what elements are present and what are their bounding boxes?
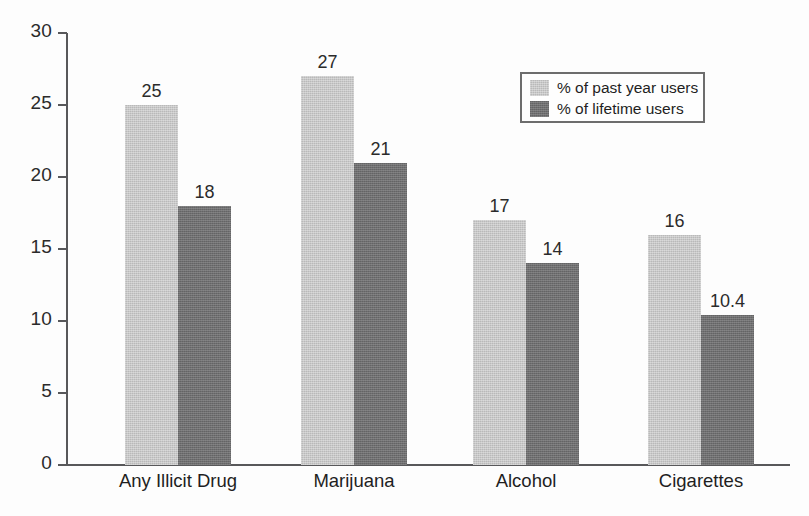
bar-value-label: 18 [164, 182, 245, 203]
bar [301, 76, 354, 465]
legend-label-past-year: % of past year users [557, 79, 698, 97]
legend: % of past year users % of lifetime users [520, 72, 705, 123]
legend-item-past-year: % of past year users [530, 78, 698, 98]
y-tick-mark [58, 320, 67, 322]
y-tick-label: 25 [12, 92, 52, 114]
bar [125, 105, 178, 465]
y-tick-label: 0 [12, 452, 52, 474]
bar-value-label: 10.4 [687, 291, 768, 312]
legend-swatch-icon-lifetime [530, 101, 549, 117]
legend-label-lifetime: % of lifetime users [557, 100, 684, 118]
y-tick-label: 10 [12, 308, 52, 330]
legend-item-lifetime: % of lifetime users [530, 99, 684, 119]
y-tick-mark [58, 32, 67, 34]
y-tick-label: 15 [12, 236, 52, 258]
bar [701, 315, 754, 465]
bar-value-label: 17 [459, 196, 540, 217]
y-tick-label: 20 [12, 164, 52, 186]
x-axis-category-label: Cigarettes [598, 470, 804, 492]
y-tick-mark [58, 392, 67, 394]
y-tick-mark [58, 176, 67, 178]
bar-value-label: 21 [340, 139, 421, 160]
bar [354, 163, 407, 465]
bar [178, 206, 231, 465]
y-tick-label: 30 [12, 20, 52, 42]
bar-chart: 051015202530 2518272117141610.4 Any Illi… [0, 0, 809, 516]
y-tick-mark [58, 248, 67, 250]
y-tick-mark [58, 104, 67, 106]
bar-value-label: 14 [512, 239, 593, 260]
bar [648, 235, 701, 465]
legend-swatch-icon-past-year [530, 80, 549, 96]
y-tick-label: 5 [12, 380, 52, 402]
plot-area: 051015202530 2518272117141610.4 Any Illi… [0, 0, 809, 516]
bar-value-label: 27 [287, 52, 368, 73]
bar [526, 263, 579, 465]
bar-value-label: 16 [634, 211, 715, 232]
bar-value-label: 25 [111, 81, 192, 102]
y-tick-mark [58, 464, 67, 466]
